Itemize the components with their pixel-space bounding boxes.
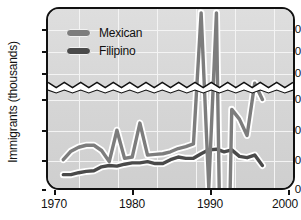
legend-swatch-filipino [66, 47, 91, 55]
x-tick-label-1990: 1990 [187, 198, 233, 210]
x-tick-label-2000: 2000 [262, 198, 301, 210]
x-tick-label-1970: 1970 [31, 198, 77, 210]
legend-label-filipino: Filipino [99, 45, 135, 57]
x-tick-mark [288, 190, 290, 195]
x-tick-mark [210, 190, 212, 195]
legend-item-mexican: Mexican [66, 25, 142, 40]
legend-label-mexican: Mexican [99, 27, 142, 39]
y-tick-mark [42, 189, 46, 191]
y-axis-title: Immigrants (thousands) [7, 27, 19, 177]
x-tick-label-1980: 1980 [109, 198, 155, 210]
chart-legend: Mexican Filipino [66, 25, 142, 61]
legend-item-filipino: Filipino [66, 43, 142, 58]
x-tick-mark [54, 190, 56, 195]
chart-figure: Immigrants (thousands) 950 900 850 150 1… [0, 0, 301, 220]
x-tick-mark [132, 190, 134, 195]
plot-area: Mexican Filipino [46, 7, 295, 190]
legend-swatch-mexican [66, 29, 91, 37]
axis-break-band [48, 81, 293, 94]
